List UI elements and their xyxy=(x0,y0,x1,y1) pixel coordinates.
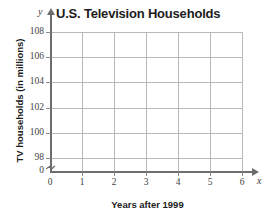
x-axis-variable-label: x xyxy=(257,175,261,186)
x-tick-label: 3 xyxy=(136,177,156,187)
y-tick-mark xyxy=(46,82,51,83)
plot-area xyxy=(50,32,242,158)
y-axis-line xyxy=(50,14,52,172)
y-tick-label: 100 xyxy=(18,127,44,137)
x-tick-mark xyxy=(242,172,243,176)
gridline-vertical xyxy=(242,32,243,171)
x-axis-title: Years after 1999 xyxy=(50,199,245,210)
y-tick-label: 98 xyxy=(18,152,44,162)
gridline-vertical xyxy=(178,32,179,171)
y-tick-mark xyxy=(46,32,51,33)
gridline-vertical xyxy=(146,32,147,171)
gridline-vertical xyxy=(114,32,115,171)
x-tick-mark xyxy=(178,172,179,176)
gridline-vertical xyxy=(210,32,211,171)
x-tick-mark xyxy=(210,172,211,176)
y-tick-mark xyxy=(46,158,51,159)
x-tick-mark xyxy=(82,172,83,176)
y-tick-mark xyxy=(46,133,51,134)
x-tick-label: 5 xyxy=(200,177,220,187)
y-tick-label: 102 xyxy=(18,102,44,112)
x-tick-label: 0 xyxy=(40,177,60,187)
x-tick-label: 2 xyxy=(104,177,124,187)
chart-container: U.S. Television Households TV households… xyxy=(0,0,275,219)
x-tick-label: 1 xyxy=(72,177,92,187)
y-axis-break-icon xyxy=(45,160,56,171)
y-tick-label: 106 xyxy=(18,51,44,61)
y-axis-arrow-icon xyxy=(47,8,55,15)
gridline-vertical xyxy=(82,32,83,171)
y-tick-label: 104 xyxy=(18,76,44,86)
x-tick-label: 6 xyxy=(232,177,252,187)
x-tick-label: 4 xyxy=(168,177,188,187)
x-tick-mark xyxy=(146,172,147,176)
chart-title: U.S. Television Households xyxy=(56,6,266,21)
y-tick-label: 0 xyxy=(18,165,44,175)
y-tick-mark xyxy=(46,57,51,58)
y-tick-mark xyxy=(46,108,51,109)
y-axis-variable-label: y xyxy=(38,6,42,17)
x-tick-mark xyxy=(114,172,115,176)
x-axis-line xyxy=(50,171,253,173)
y-tick-label: 108 xyxy=(18,26,44,36)
